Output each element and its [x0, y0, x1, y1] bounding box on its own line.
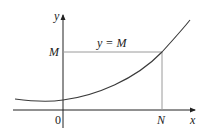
M-label: M [48, 45, 60, 59]
origin-label: 0 [55, 113, 61, 127]
x-axis-label: x [189, 113, 196, 127]
y-axis-label: y [53, 9, 60, 23]
N-label: N [156, 113, 166, 127]
line-equation-label: y = M [96, 36, 127, 50]
function-curve [15, 20, 190, 101]
limit-at-infinity-diagram: y x 0 M N y = M [0, 0, 206, 131]
